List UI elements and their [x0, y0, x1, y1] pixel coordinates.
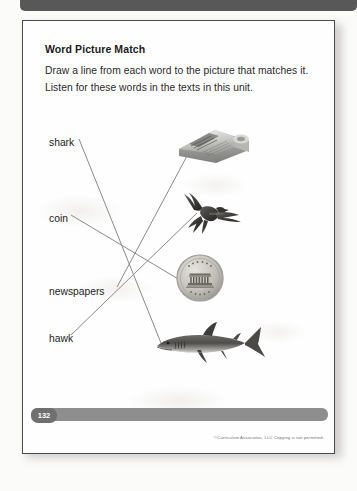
word-label-coin[interactable]: coin [49, 213, 68, 224]
hawk-photo[interactable] [173, 191, 245, 239]
word-label-newspapers[interactable]: newspapers [49, 286, 105, 297]
newspapers-photo[interactable] [169, 119, 255, 171]
instruction-line-2: Listen for these words in the texts in t… [45, 82, 253, 93]
page-title: Word Picture Match [45, 43, 145, 55]
scanned-page-background: Word Picture Match Draw a line from each… [0, 0, 357, 491]
word-label-shark[interactable]: shark [49, 137, 74, 148]
shark-photo[interactable] [151, 319, 269, 367]
worksheet-page: Word Picture Match Draw a line from each… [22, 20, 335, 454]
shark-connector-line [79, 139, 161, 343]
copyright-notice: ©Curriculum Associates, LLC Copying is n… [214, 435, 324, 440]
word-label-hawk[interactable]: hawk [49, 333, 73, 344]
coin-photo[interactable] [175, 253, 225, 303]
page-top-edge-bar [20, 0, 357, 11]
footer-bar [31, 408, 328, 421]
page-number-badge: 132 [31, 408, 57, 423]
instruction-line-1: Draw a line from each word to the pictur… [45, 65, 308, 76]
